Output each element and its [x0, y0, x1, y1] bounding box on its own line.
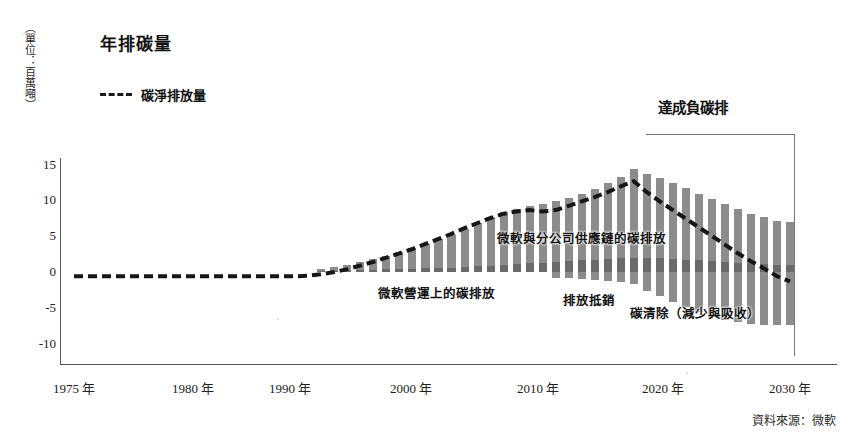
bar-negative [643, 272, 651, 291]
x-tick-1990: 1990 年 [269, 378, 311, 397]
bar-segment-operations [317, 271, 325, 272]
bar-segment-operations [773, 265, 781, 272]
bar-segment-operations [526, 263, 534, 272]
bar-segment-operations [461, 267, 469, 272]
bar-negative [773, 272, 781, 325]
bar-segment-operations [343, 271, 351, 272]
bar-positive [630, 169, 638, 272]
bar-segment-operations [747, 263, 755, 272]
bar-segment-operations [656, 258, 664, 272]
bar-negative [656, 272, 664, 296]
x-tick-2020: 2020 年 [642, 378, 684, 397]
bar-segment-operations [630, 258, 638, 272]
bar-segment-operations [734, 263, 742, 272]
bar-segment-operations [604, 259, 612, 272]
bar-segment-operations [578, 260, 586, 272]
chart-legend: 碳淨排放量 [100, 85, 206, 104]
bar-positive [487, 217, 495, 272]
bar-negative [682, 272, 690, 307]
y-tick-5: 5 [20, 228, 56, 244]
annotation-operations: 微軟營運上的碳排放 [378, 283, 495, 302]
y-axis-ticks: 15 10 5 0 -5 -10 [0, 0, 56, 439]
y-axis-line [60, 158, 61, 365]
bar-segment-operations [487, 266, 495, 272]
bar-segment-operations [421, 268, 429, 272]
bar-segment-operations [434, 268, 442, 272]
y-tick-neg5: -5 [20, 300, 56, 316]
scan-speck [23, 33, 25, 35]
bar-segment-operations [591, 260, 599, 272]
scan-speck [277, 318, 279, 320]
bar-segment-operations [513, 264, 521, 272]
bar-segment-operations [447, 268, 455, 272]
x-axis-line [60, 364, 837, 365]
dashed-line-icon [100, 93, 132, 96]
bar-positive [461, 229, 469, 272]
bar-segment-operations [552, 262, 560, 272]
bar-segment-operations [330, 271, 338, 272]
bar-segment-operations [356, 270, 364, 272]
chart-title: 年排碳量 [100, 30, 172, 55]
x-tick-1980: 1980 年 [172, 378, 214, 397]
bar-segment-operations [786, 265, 794, 272]
annotation-removal: 碳清除（減少與吸收） [630, 303, 760, 322]
x-tick-2000: 2000 年 [390, 378, 432, 397]
bar-negative [565, 272, 573, 278]
legend-label-net-emissions: 碳淨排放量 [141, 85, 206, 104]
bar-negative [760, 272, 768, 325]
bar-segment-operations [408, 269, 416, 272]
bar-negative [786, 272, 794, 325]
annotation-supply-chain: 微軟與分公司供應鏈的碳排放 [497, 228, 666, 247]
chart-canvas: （單位：百萬噸） 年排碳量 碳淨排放量 15 10 5 0 -5 -10 197… [0, 0, 848, 439]
bar-segment-operations [669, 259, 677, 272]
bar-positive [447, 235, 455, 272]
annotation-negative-goal: 達成負碳排 [658, 96, 728, 117]
bracket-top-line [646, 134, 795, 135]
x-tick-2030: 2030 年 [769, 378, 811, 397]
bar-negative [669, 272, 677, 302]
bar-segment-operations [695, 260, 703, 272]
y-tick-10: 10 [20, 192, 56, 208]
bar-segment-operations [565, 261, 573, 272]
bar-segment-operations [760, 264, 768, 272]
annotation-offsets: 排放抵銷 [563, 290, 615, 309]
source-note: 資料來源：微軟 [752, 411, 836, 429]
x-tick-2010: 2010 年 [517, 378, 559, 397]
y-tick-15: 15 [20, 157, 56, 173]
y-tick-neg10: -10 [20, 336, 56, 352]
bar-segment-operations [682, 260, 690, 272]
bar-positive [474, 223, 482, 272]
x-tick-1975: 1975 年 [53, 378, 95, 397]
bar-negative [578, 272, 586, 279]
bar-segment-operations [369, 270, 377, 272]
bar-segment-operations [643, 258, 651, 272]
bar-segment-operations [395, 269, 403, 272]
bar-segment-operations [474, 266, 482, 272]
bar-negative [617, 272, 625, 282]
bar-segment-operations [539, 263, 547, 272]
bar-segment-operations [500, 265, 508, 272]
bar-negative [630, 272, 638, 284]
bar-negative [604, 272, 612, 281]
bar-negative [552, 272, 560, 278]
bar-segment-operations [617, 258, 625, 272]
bar-segment-operations [708, 261, 716, 272]
bracket-right-line [794, 134, 795, 356]
bar-segment-operations [382, 269, 390, 272]
bar-negative [591, 272, 599, 280]
bar-segment-operations [721, 262, 729, 272]
scan-speck [686, 372, 688, 374]
y-tick-0: 0 [20, 264, 56, 280]
